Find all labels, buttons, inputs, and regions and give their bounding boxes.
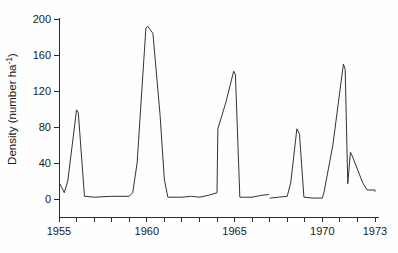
y-axis: 04080120160200 xyxy=(33,13,59,217)
series-line xyxy=(270,64,375,198)
data-series xyxy=(60,26,376,198)
series-line xyxy=(60,26,269,197)
y-tick-label: 0 xyxy=(45,193,51,205)
chart-figure: 04080120160200 19551960196519701973 Dens… xyxy=(0,0,398,253)
y-axis-title-text: Density (number ha-1) xyxy=(4,53,18,165)
x-tick-label: 1960 xyxy=(135,225,159,237)
y-tick-label: 200 xyxy=(33,13,51,25)
y-tick-label: 160 xyxy=(33,49,51,61)
y-tick-label: 120 xyxy=(33,85,51,97)
x-tick-label: 1973 xyxy=(363,225,387,237)
x-tick-label: 1965 xyxy=(222,225,246,237)
density-time-series-chart: 04080120160200 19551960196519701973 Dens… xyxy=(0,0,398,253)
y-tick-label: 40 xyxy=(39,157,51,169)
y-axis-title: Density (number ha-1) xyxy=(4,53,18,165)
y-tick-label: 80 xyxy=(39,121,51,133)
x-axis: 19551960196519701973 xyxy=(47,217,387,237)
x-tick-label: 1955 xyxy=(47,225,71,237)
x-tick-label: 1970 xyxy=(310,225,334,237)
